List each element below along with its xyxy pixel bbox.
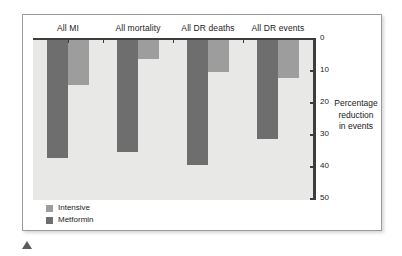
category-label-all-dr-deaths: All DR deaths [173, 20, 243, 37]
y-axis-tick [310, 70, 315, 72]
bar-intensive [138, 40, 159, 59]
y-axis-title-line-1: Percentage [330, 98, 382, 110]
y-axis-tick-label: 0 [320, 34, 324, 42]
bar-metformin [257, 40, 278, 139]
plot-area [33, 38, 313, 200]
legend-item-metformin: Metformin [46, 214, 94, 226]
category-label-all-dr-events: All DR events [243, 20, 313, 37]
category-label-all-mi: All MI [33, 20, 103, 37]
y-axis-tick [310, 102, 315, 104]
y-axis-tick [310, 134, 315, 136]
bar-metformin [117, 40, 138, 152]
legend-swatch-metformin [46, 217, 53, 224]
bar-group [103, 40, 173, 200]
bar-groups [33, 40, 313, 200]
y-axis-tick-label: 40 [320, 162, 329, 170]
y-axis-title-line-3: in events [330, 121, 382, 133]
bar-group [243, 40, 313, 200]
bar-group [173, 40, 243, 200]
y-axis-tick-label: 50 [320, 194, 329, 202]
chart-legend: Intensive Metformin [46, 202, 94, 226]
legend-label-metformin: Metformin [58, 216, 94, 224]
bar-intensive [278, 40, 299, 78]
bar-metformin [47, 40, 68, 158]
y-axis-tick-label: 30 [320, 130, 329, 138]
y-axis: 01020304050 [313, 38, 316, 200]
y-axis-title: Percentage reduction in events [330, 98, 382, 133]
x-axis-tick [243, 38, 244, 43]
y-axis-tick [310, 198, 315, 200]
y-axis-tick [310, 38, 315, 40]
figure-card: All MI All mortality All DR deaths All D… [22, 14, 382, 231]
bar-group [33, 40, 103, 200]
y-axis-tick-label: 20 [320, 98, 329, 106]
legend-item-intensive: Intensive [46, 202, 94, 214]
bar-intensive [208, 40, 229, 72]
x-axis-tick [103, 38, 104, 43]
category-label-all-mortality: All mortality [103, 20, 173, 37]
y-axis-tick-label: 10 [320, 66, 329, 74]
legend-swatch-intensive [46, 205, 53, 212]
caption-arrow-icon [22, 241, 32, 249]
y-axis-title-line-2: reduction [330, 110, 382, 122]
x-axis-tick [68, 38, 69, 43]
category-label-row: All MI All mortality All DR deaths All D… [33, 20, 313, 37]
bar-intensive [68, 40, 89, 85]
y-axis-tick [310, 166, 315, 168]
x-axis-tick [173, 38, 174, 43]
legend-label-intensive: Intensive [58, 204, 90, 212]
bar-metformin [187, 40, 208, 165]
